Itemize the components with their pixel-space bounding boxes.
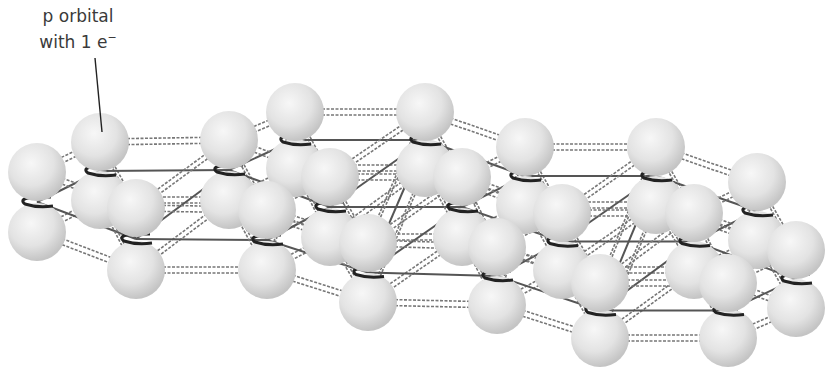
p-orbital-upper-lobe xyxy=(728,153,786,211)
p-orbital-upper-lobe xyxy=(665,184,723,242)
p-orbital-lower-lobe xyxy=(107,241,165,299)
p-orbital-upper-lobe xyxy=(8,143,66,201)
p-orbital-upper-lobe xyxy=(571,254,629,312)
p-orbital-lower-lobe xyxy=(571,309,629,367)
p-orbital-upper-lobe xyxy=(301,148,359,206)
p-orbital-upper-lobe xyxy=(238,181,296,239)
atoms xyxy=(8,83,825,367)
p-orbital-lower-lobe xyxy=(238,241,296,299)
carbon-atom xyxy=(767,221,825,337)
p-orbital-upper-lobe xyxy=(627,118,685,176)
sigma-bond xyxy=(100,170,229,171)
p-orbital-lower-lobe xyxy=(699,309,757,367)
sigma-bond xyxy=(136,239,267,240)
p-orbital-upper-lobe xyxy=(468,218,526,276)
p-orbital-upper-lobe xyxy=(433,148,491,206)
p-orbital-upper-lobe xyxy=(533,184,591,242)
p-orbital-upper-lobe xyxy=(71,113,129,171)
p-orbital-lower-lobe xyxy=(468,276,526,334)
p-orbital-upper-lobe xyxy=(107,179,165,237)
p-orbital-upper-lobe xyxy=(200,111,258,169)
p-orbital-lower-lobe xyxy=(8,203,66,261)
p-orbital-lower-lobe xyxy=(339,273,397,331)
carbon-lattice-diagram xyxy=(0,0,825,377)
p-orbital-upper-lobe xyxy=(339,214,397,272)
p-orbital-upper-lobe xyxy=(396,83,454,141)
p-orbital-upper-lobe xyxy=(767,221,825,279)
p-orbital-upper-lobe xyxy=(266,83,324,141)
p-orbital-upper-lobe xyxy=(496,118,554,176)
p-orbital-upper-lobe xyxy=(699,254,757,312)
sigma-bond xyxy=(368,273,497,277)
p-orbital-lower-lobe xyxy=(767,279,825,337)
